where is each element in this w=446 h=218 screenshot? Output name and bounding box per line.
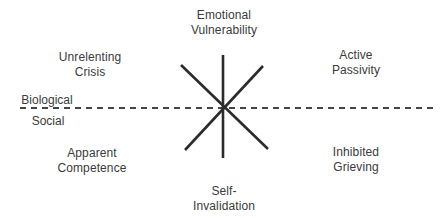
axis-label-social: Social	[32, 114, 65, 128]
pole-active-passivity: Active Passivity	[332, 48, 380, 77]
pole-label-line1: Emotional	[191, 8, 257, 23]
pole-label-line2: Passivity	[332, 63, 380, 78]
pole-emotional-vulnerability: Emotional Vulnerability	[191, 8, 257, 37]
pole-self-invalidation: Self- Invalidation	[193, 184, 255, 213]
pole-label-line1: Unrelenting	[59, 50, 121, 65]
pole-label-line2: Grieving	[333, 160, 379, 175]
pole-label-line2: Competence	[57, 161, 126, 176]
pole-label-line2: Vulnerability	[191, 23, 257, 38]
pole-apparent-competence: Apparent Competence	[57, 146, 126, 175]
pole-label-line2: Invalidation	[193, 199, 255, 214]
pole-label-line1: Apparent	[57, 146, 126, 161]
pole-label-line1: Self-	[193, 184, 255, 199]
axis-label-biological: Biological	[21, 93, 72, 107]
pole-label-line1: Active	[332, 48, 380, 63]
pole-label-line1: Inhibited	[333, 145, 379, 160]
pole-inhibited-grieving: Inhibited Grieving	[333, 145, 379, 174]
star-icon	[181, 55, 268, 158]
pole-unrelenting-crisis: Unrelenting Crisis	[59, 50, 121, 79]
pole-label-line2: Crisis	[59, 65, 121, 80]
